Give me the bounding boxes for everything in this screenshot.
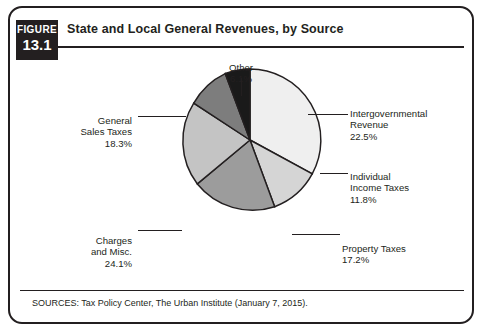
source-note: SOURCES: Tax Policy Center, The Urban In…: [32, 298, 308, 308]
label-intergovernmental-revenue: Intergovernmental Revenue 22.5%: [350, 96, 450, 155]
pie-chart: Other 6.1% Intergovernmental Revenue 22.…: [20, 48, 464, 284]
label-general-sales-taxes: General Sales Taxes 18.3%: [38, 103, 132, 162]
label-other: Other 6.1%: [206, 50, 276, 97]
label-intergovernmental-pct: 22.5%: [350, 131, 450, 143]
label-individual-name: Individual Income Taxes: [350, 171, 409, 194]
leader-line-charges: [138, 230, 182, 231]
label-individual-income-taxes: Individual Income Taxes 11.8%: [350, 159, 450, 218]
figure-card: FIGURE 13.1 State and Local General Reve…: [8, 6, 474, 324]
label-other-pct: 6.1%: [206, 73, 276, 85]
label-property-taxes: Property Taxes 17.2%: [342, 231, 452, 278]
label-charges-name: Charges and Misc.: [91, 235, 132, 258]
figure-number-badge: FIGURE 13.1: [16, 20, 58, 60]
label-property-pct: 17.2%: [342, 254, 452, 266]
leader-line-individual: [320, 173, 348, 174]
label-individual-pct: 11.8%: [350, 194, 450, 206]
label-charges-and-misc: Charges and Misc. 24.1%: [40, 223, 132, 282]
label-general-sales-pct: 18.3%: [38, 138, 132, 150]
leader-line-property: [292, 234, 340, 235]
label-general-sales-name: General Sales Taxes: [80, 115, 132, 138]
label-charges-pct: 24.1%: [40, 258, 132, 270]
figure-badge-number: 13.1: [16, 36, 58, 53]
source-divider: [20, 290, 464, 291]
figure-badge-word: FIGURE: [16, 20, 58, 36]
leader-line-intergovernmental: [308, 114, 348, 115]
figure-title: State and Local General Revenues, by Sou…: [67, 22, 344, 36]
leader-line-general-sales: [138, 116, 186, 117]
label-other-name: Other: [229, 62, 253, 73]
label-property-name: Property Taxes: [342, 243, 406, 254]
label-intergovernmental-name: Intergovernmental Revenue: [350, 108, 427, 131]
